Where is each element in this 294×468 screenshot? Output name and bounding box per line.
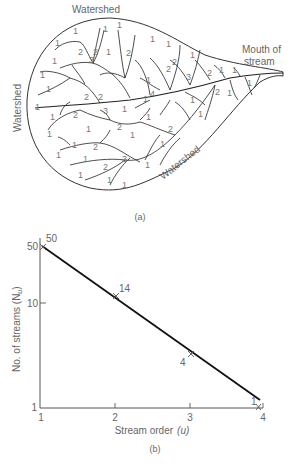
order-1-label: 1 (160, 139, 165, 149)
order-2-label: 2 (117, 122, 122, 132)
order-1-label: 1 (166, 39, 171, 49)
order-1-label: 1 (219, 65, 224, 75)
caption-a: (a) (135, 212, 146, 222)
order-1-label: 1 (78, 170, 83, 180)
watershed-label-left: Watershed (12, 84, 23, 132)
order-2-label: 2 (84, 92, 89, 102)
order-3-label: 3 (186, 72, 191, 82)
y-tick-label-50: 50 (27, 241, 39, 252)
x-axis-label-text: Stream order (115, 425, 174, 436)
order-1-label: 1 (146, 112, 151, 122)
order-2-label: 2 (93, 142, 98, 152)
order-1-label: 1 (146, 75, 151, 85)
order-1-label: 1 (247, 78, 252, 88)
x-axis-label-variable: (u) (177, 425, 189, 436)
order-2-label: 2 (215, 87, 220, 97)
order-1-label: 1 (46, 84, 51, 94)
order-1-label: 1 (50, 112, 55, 122)
y-tick-label-10: 10 (27, 298, 39, 309)
order-1-label: 1 (190, 50, 195, 60)
order-1-label: 1 (86, 124, 91, 134)
y-axis-label-close: ) (11, 286, 22, 289)
point-label-4: 4 (180, 357, 186, 368)
order-2-label: 2 (73, 110, 78, 120)
order-3-label: 3 (103, 106, 108, 116)
order-1-label: 1 (107, 175, 112, 185)
order-1-label: 1 (47, 129, 52, 139)
x-tick-label-2: 2 (112, 412, 118, 423)
order-1-label: 1 (117, 20, 122, 30)
figure-canvas: 4 3 3 3 3 2 2 2 2 2 2 2 2 2 2 2 2 2 2 1 … (0, 0, 294, 468)
order-1-label: 1 (122, 180, 127, 190)
order-1-label: 1 (190, 95, 195, 105)
order-1-label: 1 (72, 140, 77, 150)
watershed-diagram: 4 3 3 3 3 2 2 2 2 2 2 2 2 2 2 2 2 2 2 1 … (12, 4, 283, 222)
point-label-50: 50 (46, 233, 58, 244)
y-tick-label-1: 1 (31, 402, 37, 413)
order-2-label: 2 (98, 92, 103, 102)
order-1-label: 1 (55, 38, 60, 48)
mouth-label-line2: stream (244, 56, 275, 67)
y-axis-label-text: No. of streams (N (11, 294, 22, 372)
order-1-label: 1 (56, 150, 61, 160)
point-label-1: 1 (251, 396, 257, 407)
order-1-label: 1 (198, 109, 203, 119)
order-1-label: 1 (122, 104, 127, 114)
order-2-label: 2 (172, 57, 177, 67)
y-axis-label: No. of streams (Nu) (11, 286, 23, 372)
order-2-label: 2 (126, 48, 131, 58)
order-2-label: 2 (93, 47, 98, 57)
order-1-label: 1 (130, 130, 135, 140)
order-1-label: 1 (35, 102, 40, 112)
order-1-label: 1 (150, 34, 155, 44)
order-1-label: 1 (73, 26, 78, 36)
order-2-label: 2 (207, 68, 212, 78)
point-label-14: 14 (119, 283, 131, 294)
mouth-label-line1: Mouth of (242, 44, 281, 55)
x-tick-label-3: 3 (187, 412, 193, 423)
order-1-label: 1 (227, 88, 232, 98)
order-1-label: 1 (143, 94, 148, 104)
order-1-label: 1 (83, 154, 88, 164)
order-1-label: 1 (106, 47, 111, 57)
order-1-label: 1 (52, 56, 57, 66)
order-2-label: 2 (103, 162, 108, 172)
stream-order-chart: 1 10 50 1 2 3 4 50 14 4 1 No. of streams… (11, 233, 266, 454)
watershed-label-bottom: Watershed (157, 143, 202, 181)
marker-order-1 (40, 244, 46, 250)
order-3-label: 3 (122, 154, 127, 164)
trend-line (42, 246, 260, 400)
order-1-label: 1 (232, 65, 237, 75)
watershed-label-top: Watershed (72, 4, 120, 15)
caption-b: (b) (150, 444, 161, 454)
order-1-label: 1 (103, 24, 108, 34)
marker-order-4 (256, 404, 261, 410)
order-2-label: 2 (78, 47, 83, 57)
order-4-label: 4 (150, 89, 155, 99)
order-2-label: 2 (168, 124, 173, 134)
x-tick-label-4: 4 (260, 412, 266, 423)
order-2-label: 2 (166, 64, 171, 74)
order-1-label: 1 (145, 160, 150, 170)
x-tick-label-1: 1 (38, 412, 44, 423)
x-axis-label: Stream order(u) (115, 425, 190, 436)
order-1-label: 1 (40, 70, 45, 80)
